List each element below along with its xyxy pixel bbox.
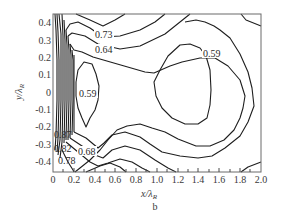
svg-text:0.4: 0.4 bbox=[89, 174, 102, 185]
panel-label: b bbox=[153, 201, 158, 212]
x-axis-title: x/λR bbox=[140, 188, 158, 201]
svg-text:0.59: 0.59 bbox=[203, 48, 221, 59]
svg-text:0.82: 0.82 bbox=[54, 143, 72, 154]
contour-bottom-small bbox=[86, 163, 126, 172]
svg-text:0.68: 0.68 bbox=[78, 146, 96, 157]
svg-text:0.1: 0.1 bbox=[39, 69, 52, 80]
svg-text:0.2: 0.2 bbox=[39, 52, 52, 63]
svg-text:0.8: 0.8 bbox=[130, 174, 143, 185]
svg-text:0.6: 0.6 bbox=[109, 174, 122, 185]
svg-text:1.4: 1.4 bbox=[192, 174, 205, 185]
contour-bottom-right-corner bbox=[241, 162, 261, 172]
svg-text:-0.1: -0.1 bbox=[35, 104, 51, 115]
svg-text:1.2: 1.2 bbox=[172, 174, 185, 185]
svg-text:0: 0 bbox=[46, 87, 51, 98]
contour-0.68-top bbox=[68, 14, 190, 49]
svg-text:1.0: 1.0 bbox=[151, 174, 164, 185]
y-tick-labels: 0.4 0.3 0.2 0.1 0 -0.1 -0.2 -0.3 -0.4 bbox=[35, 17, 51, 167]
svg-text:2.0: 2.0 bbox=[255, 174, 268, 185]
svg-text:0.87: 0.87 bbox=[54, 129, 72, 140]
svg-text:0.78: 0.78 bbox=[58, 155, 76, 166]
contour-chart: 0 0.2 0.4 0.6 0.8 1.0 1.2 1.4 1.6 1.8 2.… bbox=[0, 0, 282, 221]
svg-text:-0.3: -0.3 bbox=[35, 139, 51, 150]
svg-text:0.73: 0.73 bbox=[95, 29, 113, 40]
svg-text:0.3: 0.3 bbox=[39, 35, 52, 46]
svg-text:-0.2: -0.2 bbox=[35, 121, 51, 132]
svg-text:0.2: 0.2 bbox=[68, 174, 81, 185]
svg-text:1.6: 1.6 bbox=[213, 174, 226, 185]
svg-text:0.4: 0.4 bbox=[39, 17, 52, 28]
svg-text:1.8: 1.8 bbox=[234, 174, 247, 185]
svg-text:0.64: 0.64 bbox=[95, 44, 113, 55]
svg-text:0.59: 0.59 bbox=[79, 88, 97, 99]
svg-text:-0.4: -0.4 bbox=[35, 156, 51, 167]
svg-text:0: 0 bbox=[51, 174, 56, 185]
contour-top-right-corner bbox=[241, 14, 261, 26]
y-axis-title: y/λR bbox=[13, 83, 26, 101]
x-tick-labels: 0 0.2 0.4 0.6 0.8 1.0 1.2 1.4 1.6 1.8 2.… bbox=[51, 174, 268, 185]
contour-0.73 bbox=[66, 14, 165, 37]
